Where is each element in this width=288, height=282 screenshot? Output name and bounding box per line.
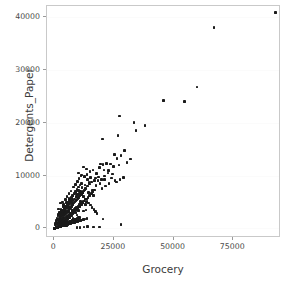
data-point xyxy=(101,187,104,190)
data-point xyxy=(89,170,92,173)
data-point xyxy=(79,226,82,229)
data-point xyxy=(72,186,75,189)
data-point xyxy=(144,124,147,127)
data-point xyxy=(98,166,101,169)
data-point xyxy=(86,178,89,181)
y-tick-mark xyxy=(43,227,46,228)
y-tick-label: 40000 xyxy=(15,11,40,20)
data-point xyxy=(93,189,96,192)
data-point xyxy=(112,165,115,168)
data-point xyxy=(80,174,83,177)
gridline xyxy=(47,228,279,229)
data-point xyxy=(108,182,111,185)
data-point xyxy=(88,183,91,186)
data-point xyxy=(103,169,106,172)
data-point xyxy=(96,212,99,215)
data-point xyxy=(196,86,199,89)
data-point xyxy=(77,172,80,175)
data-point xyxy=(90,181,93,184)
x-tick-mark xyxy=(232,237,233,240)
data-point xyxy=(119,178,122,181)
gridline xyxy=(47,70,279,71)
data-point xyxy=(93,179,96,182)
data-point xyxy=(86,185,89,188)
data-point xyxy=(89,176,92,179)
data-point xyxy=(115,181,118,184)
data-point xyxy=(76,180,79,183)
gridline xyxy=(47,17,279,18)
data-point xyxy=(78,177,81,180)
data-point xyxy=(86,217,89,220)
data-point xyxy=(95,172,98,175)
data-point xyxy=(59,225,62,228)
data-point xyxy=(110,177,113,180)
y-tick-mark xyxy=(43,175,46,176)
data-point xyxy=(92,226,95,229)
data-point xyxy=(76,188,79,191)
y-tick-mark xyxy=(43,16,46,17)
y-tick-label: 0 xyxy=(35,223,40,232)
data-point xyxy=(86,225,89,228)
data-point xyxy=(102,218,105,221)
data-point xyxy=(85,168,88,171)
x-tick-mark xyxy=(53,237,54,240)
gridline xyxy=(47,123,279,124)
y-axis-label: Detergents_Paper xyxy=(23,22,35,208)
data-point xyxy=(213,26,216,29)
data-point xyxy=(111,173,114,176)
scatter-plot-figure: 010000200003000040000 0250005000075000 G… xyxy=(0,0,288,282)
data-point xyxy=(80,202,83,205)
data-point xyxy=(70,190,73,193)
data-point xyxy=(183,100,186,103)
y-tick-mark xyxy=(43,69,46,70)
data-point xyxy=(105,162,108,165)
x-tick-label: 25000 xyxy=(100,242,125,251)
data-point xyxy=(120,223,123,226)
x-tick-label: 50000 xyxy=(160,242,185,251)
data-point xyxy=(113,153,116,156)
data-point xyxy=(101,138,104,141)
data-point xyxy=(122,176,125,179)
data-point xyxy=(82,166,85,169)
data-point xyxy=(92,169,95,172)
data-point xyxy=(80,182,83,185)
data-point xyxy=(100,178,103,181)
data-point xyxy=(109,163,112,166)
data-point xyxy=(76,226,79,229)
data-point xyxy=(82,210,85,213)
data-point xyxy=(104,185,107,188)
data-point xyxy=(68,200,71,203)
plot-area xyxy=(46,5,280,237)
y-tick-mark xyxy=(43,122,46,123)
data-point xyxy=(123,149,126,152)
x-tick-mark xyxy=(113,237,114,240)
data-point xyxy=(135,129,138,132)
data-point xyxy=(99,182,102,185)
data-point xyxy=(117,134,120,137)
data-point xyxy=(118,164,121,167)
x-axis-ticks: 0250005000075000 xyxy=(46,237,280,253)
data-point xyxy=(107,169,110,172)
data-point xyxy=(120,154,123,157)
data-point xyxy=(103,178,106,181)
data-point xyxy=(85,209,88,212)
data-point xyxy=(274,11,277,14)
x-tick-label: 0 xyxy=(51,242,56,251)
data-point xyxy=(162,99,165,102)
data-point xyxy=(84,187,87,190)
data-point xyxy=(116,157,119,160)
data-point xyxy=(95,184,98,187)
data-point xyxy=(68,192,71,195)
x-tick-mark xyxy=(173,237,174,240)
data-point xyxy=(126,161,129,164)
data-point xyxy=(118,115,121,118)
data-point xyxy=(102,163,105,166)
x-tick-label: 75000 xyxy=(220,242,245,251)
x-axis-label: Grocery xyxy=(46,263,280,275)
data-point xyxy=(129,158,132,161)
